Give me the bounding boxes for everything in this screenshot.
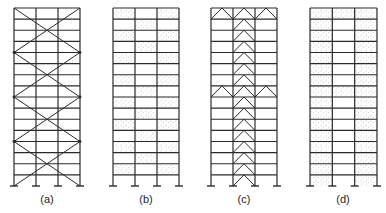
infill-panel	[310, 75, 332, 86]
frame-a-x-braced	[10, 8, 84, 186]
infill-panel	[355, 86, 377, 97]
infill-panel	[135, 86, 157, 97]
chevron-brace	[233, 75, 255, 86]
label-a: (a)	[27, 193, 67, 205]
chevron-brace	[233, 108, 255, 119]
joint	[79, 96, 82, 99]
infill-panel	[355, 19, 377, 30]
infill-panel	[113, 119, 135, 130]
infill-panel	[310, 164, 332, 175]
infill-panel	[157, 97, 179, 108]
infill-panel	[355, 164, 377, 175]
chevron-brace	[233, 175, 255, 186]
chevron-brace	[233, 19, 255, 30]
infill-panel	[310, 108, 332, 119]
infill-panel	[310, 97, 332, 108]
frame-b-staggered-infill	[109, 8, 183, 186]
chevron-brace	[233, 153, 255, 164]
chevron-brace	[233, 86, 255, 97]
infill-panel	[135, 41, 157, 52]
joint	[13, 51, 16, 54]
infill-panel	[157, 8, 179, 19]
infill-panel	[310, 41, 332, 52]
infill-panel	[135, 19, 157, 30]
structural-systems-diagram	[0, 0, 386, 213]
infill-panel	[310, 53, 332, 64]
infill-panel	[157, 142, 179, 153]
infill-panel	[113, 164, 135, 175]
infill-panel	[355, 97, 377, 108]
chevron-brace	[233, 130, 255, 141]
chevron-brace	[255, 8, 277, 19]
infill-panel	[355, 75, 377, 86]
infill-panel	[157, 30, 179, 41]
infill-panel	[355, 30, 377, 41]
infill-panel	[355, 8, 377, 19]
infill-panel	[157, 164, 179, 175]
infill-panel	[135, 130, 157, 141]
chevron-brace	[233, 53, 255, 64]
infill-panel	[310, 175, 332, 186]
chevron-brace	[233, 164, 255, 175]
infill-panel	[157, 75, 179, 86]
chevron-brace	[233, 97, 255, 108]
chevron-brace	[233, 142, 255, 153]
infill-panel	[310, 8, 332, 19]
infill-panel	[355, 53, 377, 64]
chevron-brace	[233, 119, 255, 130]
infill-panel	[113, 30, 135, 41]
chevron-brace	[233, 64, 255, 75]
infill-panel	[355, 108, 377, 119]
label-d: (d)	[323, 193, 363, 205]
chevron-brace	[233, 30, 255, 41]
infill-panel	[332, 86, 354, 97]
joint	[79, 51, 82, 54]
infill-panel	[113, 8, 135, 19]
joint	[13, 140, 16, 143]
chevron-brace	[211, 8, 233, 19]
infill-panel	[113, 53, 135, 64]
infill-panel	[113, 142, 135, 153]
joint	[79, 140, 82, 143]
joint	[13, 96, 16, 99]
label-c: (c)	[224, 193, 264, 205]
infill-panel	[310, 142, 332, 153]
infill-panel	[310, 86, 332, 97]
chevron-brace	[211, 86, 233, 97]
infill-panel	[310, 64, 332, 75]
infill-panel	[310, 30, 332, 41]
infill-panel	[355, 130, 377, 141]
infill-panel	[157, 53, 179, 64]
chevron-brace	[255, 86, 277, 97]
infill-panel	[355, 64, 377, 75]
infill-panel	[355, 142, 377, 153]
infill-panel	[135, 108, 157, 119]
infill-panel	[310, 153, 332, 164]
infill-panel	[310, 19, 332, 30]
infill-panel	[113, 97, 135, 108]
infill-panel	[355, 41, 377, 52]
infill-panel	[355, 175, 377, 186]
label-b: (b)	[126, 193, 166, 205]
infill-panel	[157, 119, 179, 130]
chevron-brace	[233, 8, 255, 19]
infill-panel	[113, 75, 135, 86]
infill-panel	[355, 153, 377, 164]
chevron-brace	[233, 41, 255, 52]
infill-panel	[310, 119, 332, 130]
infill-panel	[355, 119, 377, 130]
infill-panel	[310, 130, 332, 141]
frame-c-chevron-core-outriggers	[207, 8, 281, 186]
infill-panel	[135, 153, 157, 164]
infill-panel	[332, 8, 354, 19]
frame-d-infill-outriggers	[306, 8, 381, 186]
